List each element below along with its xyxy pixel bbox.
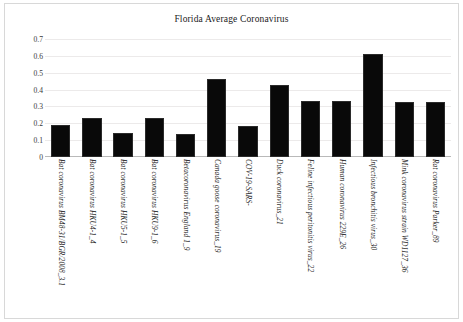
x-tick-label: Human coronavirus 229E_26 bbox=[337, 159, 346, 249]
bar[interactable] bbox=[238, 126, 257, 157]
y-tick-label: 0.5 bbox=[9, 68, 43, 77]
bar[interactable] bbox=[82, 118, 101, 157]
x-tick-label: Duck coronavirus_21 bbox=[275, 159, 284, 225]
bar-slot bbox=[295, 39, 326, 157]
bar-slot bbox=[107, 39, 138, 157]
x-label-slot: Betacoronavirus England 1_9 bbox=[170, 159, 201, 309]
x-label-slot: Canada goose coronavirus_19 bbox=[201, 159, 232, 309]
x-tick-label: Bat coronavirus HKU5-1_5 bbox=[119, 159, 128, 244]
x-tick-label: Mink coronavirus strain WD1127_36 bbox=[400, 159, 409, 273]
x-tick-label: Canada goose coronavirus_19 bbox=[212, 159, 221, 253]
x-tick-label: Infectious bronchitis virus_30 bbox=[368, 159, 377, 250]
x-label-slot: Bat coronavirus HKU4-1_4 bbox=[76, 159, 107, 309]
figure-frame: Florida Average Coronavirus 0.70.60.50.4… bbox=[4, 3, 459, 319]
x-label-slot: Human coronavirus 229E_26 bbox=[326, 159, 357, 309]
x-tick-label: Bat coronavirus HKU4-1_4 bbox=[87, 159, 96, 244]
chart-title: Florida Average Coronavirus bbox=[5, 14, 458, 24]
bar-slot bbox=[76, 39, 107, 157]
y-tick-label: 0 bbox=[9, 153, 43, 162]
x-tick-label: Feline infectious peritonitis virus_22 bbox=[306, 159, 315, 272]
y-tick-label: 0.2 bbox=[9, 119, 43, 128]
x-label-slot: Feline infectious peritonitis virus_22 bbox=[295, 159, 326, 309]
bar-slot bbox=[326, 39, 357, 157]
bar[interactable] bbox=[207, 79, 226, 157]
bar[interactable] bbox=[270, 85, 289, 157]
x-label-slot: Mink coronavirus strain WD1127_36 bbox=[389, 159, 420, 309]
bar-slot bbox=[45, 39, 76, 157]
x-label-slot: Rat coronavirus Parker_89 bbox=[420, 159, 451, 309]
bar[interactable] bbox=[301, 101, 320, 157]
bar[interactable] bbox=[113, 133, 132, 157]
bar[interactable] bbox=[332, 101, 351, 157]
x-tick-label: Rat coronavirus Parker_89 bbox=[431, 159, 440, 243]
x-tick-label: Bat coronavirus HKU9-1_6 bbox=[150, 159, 159, 244]
y-tick-label: 0.3 bbox=[9, 102, 43, 111]
bar-slot bbox=[420, 39, 451, 157]
bar-slot bbox=[170, 39, 201, 157]
x-label-slot: Bat coronavirus HKU5-1_5 bbox=[107, 159, 138, 309]
bar-slot bbox=[232, 39, 263, 157]
x-tick-label: COV-19-SARS- bbox=[244, 159, 253, 206]
y-axis-ticks: 0.70.60.50.40.30.20.10 bbox=[5, 39, 43, 157]
bar[interactable] bbox=[363, 54, 382, 157]
y-tick-label: 0.1 bbox=[9, 136, 43, 145]
bar[interactable] bbox=[426, 102, 445, 157]
x-label-slot: Infectious bronchitis virus_30 bbox=[357, 159, 388, 309]
y-tick-label: 0.7 bbox=[9, 35, 43, 44]
x-tick-label: Bat coronavirus BM48-31/BGR/2008_3.1 bbox=[56, 159, 65, 286]
bar-slot bbox=[389, 39, 420, 157]
bar-slot bbox=[264, 39, 295, 157]
bar[interactable] bbox=[176, 134, 195, 157]
x-label-slot: COV-19-SARS- bbox=[232, 159, 263, 309]
bar-slot bbox=[139, 39, 170, 157]
x-label-slot: Duck coronavirus_21 bbox=[264, 159, 295, 309]
x-tick-label: Betacoronavirus England 1_9 bbox=[181, 159, 190, 251]
bar[interactable] bbox=[395, 102, 414, 157]
chart-screenshot: Florida Average Coronavirus 0.70.60.50.4… bbox=[0, 0, 463, 322]
bar[interactable] bbox=[51, 125, 70, 157]
x-label-slot: Bat coronavirus HKU9-1_6 bbox=[139, 159, 170, 309]
x-axis-category-labels: Bat coronavirus BM48-31/BGR/2008_3.1Bat … bbox=[45, 159, 451, 309]
y-tick-label: 0.6 bbox=[9, 51, 43, 60]
bar-slot bbox=[357, 39, 388, 157]
bar-series bbox=[45, 39, 451, 157]
y-tick-label: 0.4 bbox=[9, 85, 43, 94]
bar-slot bbox=[201, 39, 232, 157]
x-label-slot: Bat coronavirus BM48-31/BGR/2008_3.1 bbox=[45, 159, 76, 309]
bar[interactable] bbox=[145, 118, 164, 157]
